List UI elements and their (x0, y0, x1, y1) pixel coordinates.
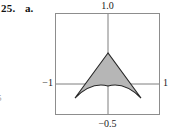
plot-canvas (55, 13, 160, 115)
figure-page: 25. a. 5 1.0 −0.5 −1 1 (0, 0, 178, 139)
plot-figure (55, 13, 160, 115)
tick-label-right: 1 (163, 77, 168, 88)
margin-text: 5 (0, 93, 5, 103)
tick-label-left: −1 (36, 77, 53, 88)
tick-label-bottom: −0.5 (55, 118, 160, 129)
problem-part-label: a. (25, 2, 33, 15)
tick-label-top: 1.0 (55, 0, 160, 11)
problem-number-label: 25. (1, 2, 15, 15)
